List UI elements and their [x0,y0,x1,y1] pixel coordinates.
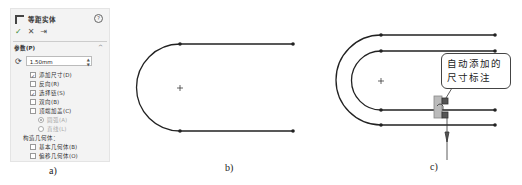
center-mark-b [177,85,183,91]
sketch-points-b [178,42,295,133]
caption-b: b) [225,162,233,173]
center-mark-c [378,78,384,84]
caption-c: c) [430,161,438,172]
callout-line-1: 自动添加的 [447,57,510,71]
caption-a: a) [49,165,57,176]
auto-dimension-callout: 自动添加的 尺寸标注 [441,53,511,89]
sketch-canvas [0,0,522,185]
dimension-annotation [434,88,452,160]
original-sketch [137,44,293,131]
callout-line-2: 尺寸标注 [447,71,510,85]
